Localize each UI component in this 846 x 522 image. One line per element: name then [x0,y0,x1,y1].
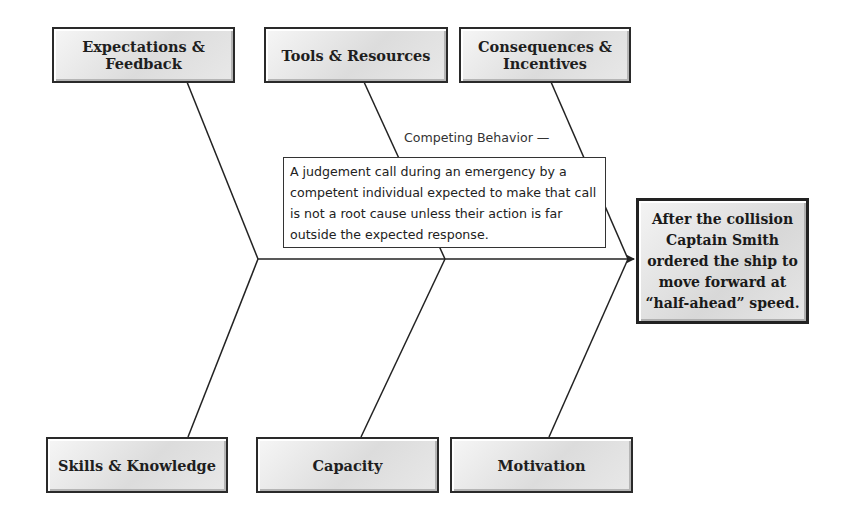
category-motivation: Motivation [450,437,633,493]
competing-behavior-callout: A judgement call during an emergency by … [283,157,606,248]
callout-text: A judgement call during an emergency by … [290,164,596,242]
bone-expectations [187,82,258,259]
bone-capacity [361,259,445,437]
effect-text: After the collision Captain Smith ordere… [645,209,800,314]
category-label: Capacity [313,457,383,474]
category-expectations-feedback: Expectations & Feedback [52,27,235,83]
competing-behavior-label: Competing Behavior — [404,130,549,145]
effect-box: After the collision Captain Smith ordere… [636,198,809,324]
bone-motivation [549,259,628,437]
category-label: Consequences & Incentives [475,38,615,72]
category-consequences-incentives: Consequences & Incentives [459,27,631,83]
category-label: Tools & Resources [282,47,431,64]
category-label: Skills & Knowledge [58,457,216,474]
category-label: Motivation [497,457,585,474]
category-label: Expectations & Feedback [79,38,209,72]
bone-skills [188,259,258,437]
category-tools-resources: Tools & Resources [264,27,448,83]
category-skills-knowledge: Skills & Knowledge [46,437,228,493]
category-capacity: Capacity [256,437,439,493]
